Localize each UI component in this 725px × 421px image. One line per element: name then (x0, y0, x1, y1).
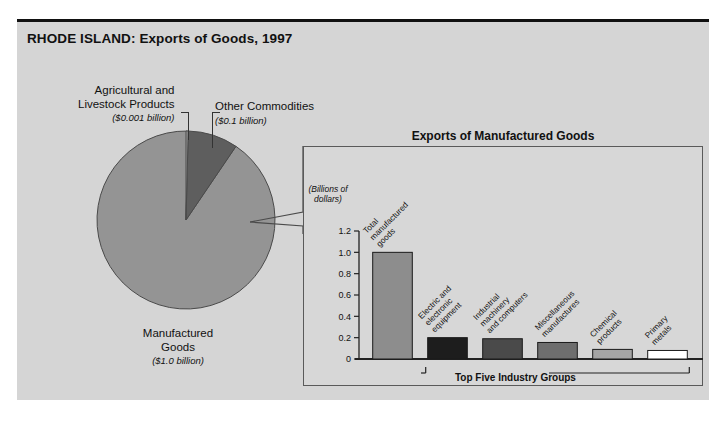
pie-label-other-commodities: Other Commodities ($0.1 billion) (215, 100, 314, 127)
pie-label-other-amount: ($0.1 billion) (215, 114, 314, 128)
page-title: RHODE ISLAND: Exports of Goods, 1997 (27, 31, 292, 46)
bar-5 (593, 349, 633, 359)
y-axis-tick-label: 0 (346, 354, 351, 364)
y-axis-tick-label: 0.2 (338, 333, 351, 343)
bar-label-4: Miscellaneousmanufactures (533, 289, 583, 339)
bar-2 (428, 338, 468, 359)
pie-label-manufactured-amount: ($1.0 billion) (108, 354, 248, 368)
bar-label-3: Industrialmachineryand computers (472, 277, 530, 335)
title-rule (17, 19, 709, 22)
bar-label-5: Chemicalproducts (588, 309, 625, 346)
pie-label-manufactured-goods: Manufactured Goods ($1.0 billion) (108, 327, 248, 368)
pie-label-manufactured-line1: Manufactured (108, 327, 248, 341)
pie-label-agricultural-line2: Livestock Products (78, 98, 175, 112)
pie-label-agricultural: Agricultural and Livestock Products ($0.… (78, 84, 175, 125)
bar-label-1: Totalmanufacturedgoods (362, 193, 417, 248)
y-axis-tick-label: 1.0 (338, 248, 351, 258)
bar-6 (648, 350, 688, 359)
bar-4 (538, 342, 578, 359)
bar-chart-title: Exports of Manufactured Goods (303, 129, 703, 143)
bar-label-6: Primarymetals (643, 313, 677, 347)
bar-3 (483, 339, 523, 359)
bar-plot-area: 00.20.40.60.81.01.2Totalmanufacturedgood… (303, 146, 703, 386)
leader-line-agricultural-vertical (188, 112, 189, 140)
pie-label-agricultural-amount: ($0.001 billion) (78, 111, 175, 125)
pie-label-manufactured-line2: Goods (108, 341, 248, 355)
bracket-label: Top Five Industry Groups (455, 372, 576, 383)
y-axis-tick-label: 1.2 (338, 226, 351, 236)
pie-label-other-line1: Other Commodities (215, 100, 314, 114)
y-axis-tick-label: 0.6 (338, 290, 351, 300)
bar-plot-svg: 00.20.40.60.81.01.2Totalmanufacturedgood… (303, 146, 703, 386)
leader-line-agricultural-elbow (181, 112, 189, 113)
pie-label-agricultural-line1: Agricultural and (78, 84, 175, 98)
bar-label-2: Electric andelectronicequipment (417, 284, 467, 334)
leader-line-other-vertical (212, 112, 213, 148)
y-axis-tick-label: 0.8 (338, 269, 351, 279)
bar-1 (373, 252, 413, 359)
y-axis-tick-label: 0.4 (338, 312, 351, 322)
figure-root: RHODE ISLAND: Exports of Goods, 1997 Agr… (0, 0, 725, 421)
